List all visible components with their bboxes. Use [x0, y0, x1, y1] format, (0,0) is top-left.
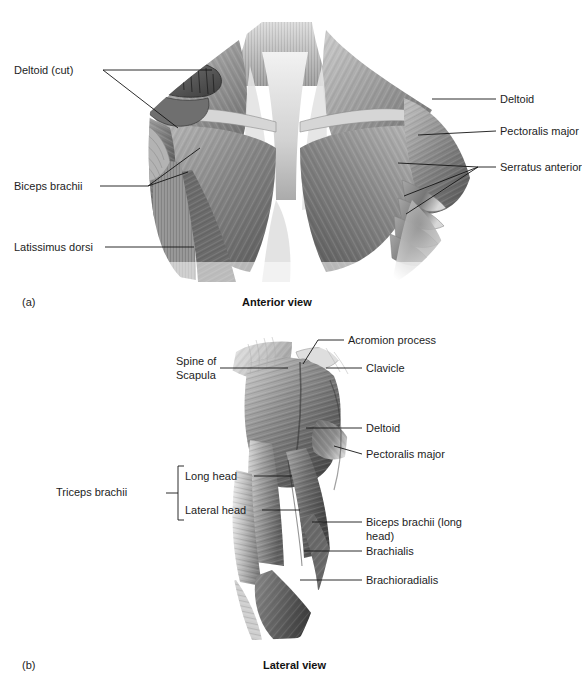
label-lateral-head: Lateral head — [185, 504, 246, 517]
label-pectoralis-major: Pectoralis major — [500, 125, 579, 138]
label-brachialis: Brachialis — [366, 545, 414, 558]
label-acromion-process: Acromion process — [348, 334, 436, 347]
panel-letter-a: (a) — [22, 296, 35, 308]
label-biceps-brachii-long-head: Biceps brachii (long head) — [366, 516, 466, 543]
caption-anterior-view: Anterior view — [242, 296, 312, 308]
label-deltoid-lateral: Deltoid — [366, 422, 400, 435]
label-latissimus-dorsi: Latissimus dorsi — [14, 241, 93, 254]
label-pectoralis-major-lateral: Pectoralis major — [366, 448, 445, 461]
label-spine-of-scapula: Spine of Scapula — [176, 355, 222, 382]
label-biceps-brachii: Biceps brachii — [14, 180, 82, 193]
label-serratus-anterior: Serratus anterior — [500, 161, 582, 174]
caption-lateral-view: Lateral view — [263, 659, 326, 671]
label-triceps-brachii: Triceps brachii — [56, 486, 127, 499]
label-deltoid-cut: Deltoid (cut) — [14, 64, 73, 77]
label-deltoid: Deltoid — [500, 93, 534, 106]
label-brachioradialis: Brachioradialis — [366, 574, 438, 587]
label-clavicle: Clavicle — [366, 362, 405, 375]
panel-letter-b: (b) — [22, 659, 35, 671]
label-long-head: Long head — [185, 470, 237, 483]
